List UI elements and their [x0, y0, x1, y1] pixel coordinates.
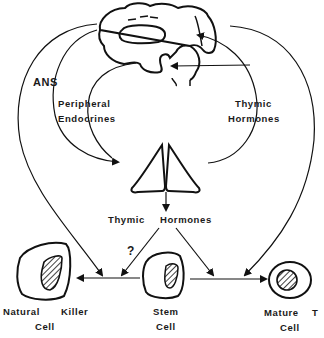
neuroimmune-diagram: ANS Peripheral Endocrines Thymic Hormone… — [0, 0, 324, 338]
thymic-right-label: Thymic — [235, 98, 272, 110]
endocrines-label: Endocrines — [58, 113, 116, 125]
stem-cell-label-cell: Cell — [156, 321, 176, 333]
stem-cell-icon — [143, 253, 184, 298]
thymic-center-label: Thymic — [108, 214, 145, 226]
diagram-lines — [0, 0, 324, 338]
t-cell-label-cell: Cell — [280, 322, 300, 334]
thymus-icon — [131, 145, 199, 192]
natural-killer-cell-icon — [17, 243, 70, 300]
question-mark-label: ? — [127, 245, 135, 257]
mature-t-cell-icon — [269, 262, 311, 298]
stem-cell-label-stem: Stem — [153, 306, 179, 318]
arrow-peripheral-to-thymus — [88, 63, 136, 158]
nk-cell-label-killer: Killer — [61, 306, 88, 318]
t-cell-label-t: T — [312, 307, 318, 319]
arrow-ans-to-thymus — [53, 30, 118, 162]
arrow-to-brainstem — [172, 65, 250, 66]
t-cell-label-mature: Mature — [264, 307, 299, 319]
hormones-center-label: Hormones — [160, 214, 212, 226]
hormones-right-label: Hormones — [228, 113, 280, 125]
ans-label: ANS — [33, 76, 58, 88]
arrow-brain-to-nk-path — [18, 24, 102, 275]
nk-cell-label-cell: Cell — [35, 321, 55, 333]
peripheral-label: Peripheral — [58, 98, 110, 110]
nk-cell-label-natural: Natural — [3, 306, 40, 318]
brain-icon — [99, 3, 216, 86]
